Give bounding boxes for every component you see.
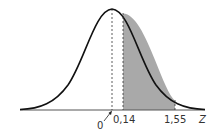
normal-curve: [20, 9, 205, 110]
tick-label-zero: 0: [97, 121, 103, 131]
tick-label-0-14: 0,14: [113, 115, 135, 125]
tick-label-1-55: 1,55: [164, 115, 186, 125]
shaded-area: [123, 14, 175, 111]
axis-label-z: Z: [199, 115, 206, 125]
